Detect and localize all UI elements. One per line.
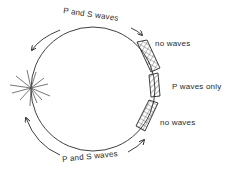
p-waves-only-zone bbox=[149, 73, 160, 97]
zone-middle-label: P waves only bbox=[172, 82, 221, 91]
no-waves-lower-zone bbox=[136, 100, 158, 131]
earth-circle bbox=[31, 27, 155, 151]
zone-upper-label: no waves bbox=[155, 39, 190, 48]
bottom-left-arrow bbox=[26, 118, 60, 155]
top-right-arrow bbox=[131, 28, 142, 35]
epicenter-starburst-icon bbox=[10, 70, 50, 106]
zone-lower-label: no waves bbox=[160, 118, 195, 127]
top-arrow bbox=[32, 30, 60, 50]
bottom-right-arrow bbox=[128, 140, 144, 152]
